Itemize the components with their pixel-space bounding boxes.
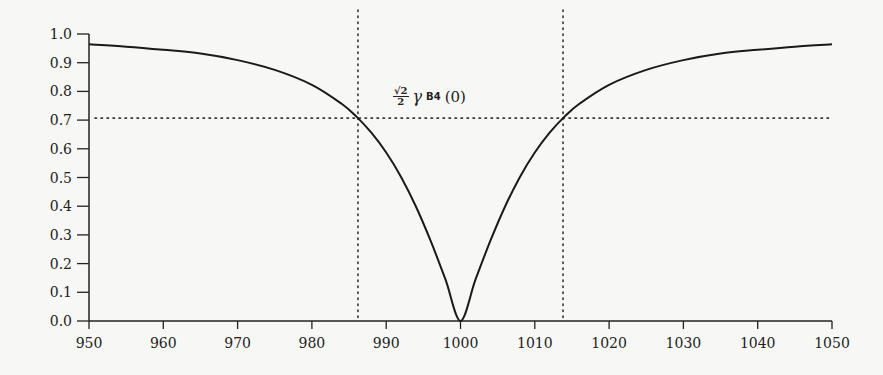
y-tick-label: 0.6	[50, 141, 72, 157]
reference-lines	[95, 10, 832, 318]
y-tick-label: 0.5	[50, 170, 72, 186]
y-tick-label: 0.7	[50, 112, 72, 128]
line-chart: 9509609709809901000101010201030104010500…	[0, 0, 883, 375]
x-tick-label: 970	[224, 335, 251, 351]
x-tick-label: 950	[76, 335, 103, 351]
x-tick-label: 1010	[517, 335, 553, 351]
y-tick-label: 0.0	[50, 313, 72, 329]
x-tick-label: 1020	[591, 335, 627, 351]
x-tick-label: 1000	[443, 335, 479, 351]
gamma-subscript: B4	[426, 91, 441, 102]
x-tick-label: 990	[373, 335, 400, 351]
half-max-annotation: √2 2 γB4(0)	[393, 86, 466, 107]
x-tick-label: 1040	[740, 335, 776, 351]
y-tick-label: 0.9	[50, 55, 72, 71]
gamma-argument: (0)	[445, 88, 466, 106]
axes: 9509609709809901000101010201030104010500…	[50, 26, 850, 351]
x-tick-label: 1050	[814, 335, 850, 351]
y-tick-label: 0.2	[50, 256, 72, 272]
sqrt2-over-2-fraction: √2 2	[393, 86, 409, 107]
gamma-symbol: γ	[413, 87, 423, 106]
y-tick-label: 0.1	[50, 284, 72, 300]
x-tick-label: 1030	[666, 335, 702, 351]
y-tick-label: 0.8	[50, 83, 72, 99]
x-tick-label: 980	[299, 335, 326, 351]
y-tick-label: 0.4	[50, 198, 72, 214]
y-tick-label: 0.3	[50, 227, 72, 243]
x-tick-label: 960	[150, 335, 177, 351]
y-tick-label: 1.0	[50, 26, 72, 42]
